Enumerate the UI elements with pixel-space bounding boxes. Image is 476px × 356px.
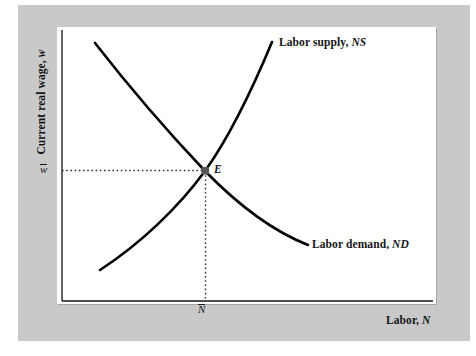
y-axis-tick-wbar-text: w xyxy=(40,163,47,175)
plot-area xyxy=(57,27,436,304)
x-axis-title: Labor, N xyxy=(386,314,430,326)
y-axis-title-symbol: w xyxy=(35,49,47,57)
x-axis-tick-nbar-text: N xyxy=(198,303,205,315)
x-axis-tick-nbar: N xyxy=(198,303,205,315)
y-axis-title-text: Current real wage, xyxy=(35,57,47,154)
y-axis-title: Current real wage, w xyxy=(35,17,47,187)
equilibrium-point-label: E xyxy=(214,163,222,175)
x-axis-title-text: Labor, xyxy=(386,314,422,326)
x-axis-title-symbol: N xyxy=(422,314,430,326)
labor-supply-label-text: Labor supply, xyxy=(279,36,351,48)
labor-demand-label-symbol: ND xyxy=(392,238,409,250)
labor-supply-label: Labor supply, NS xyxy=(279,36,366,48)
y-axis-tick-wbar: w xyxy=(40,163,47,175)
labor-demand-label-text: Labor demand, xyxy=(312,238,392,250)
labor-supply-label-symbol: NS xyxy=(351,36,366,48)
labor-demand-label: Labor demand, ND xyxy=(312,238,409,250)
figure-container: Current real wage, w Labor, N Labor supp… xyxy=(0,0,476,356)
